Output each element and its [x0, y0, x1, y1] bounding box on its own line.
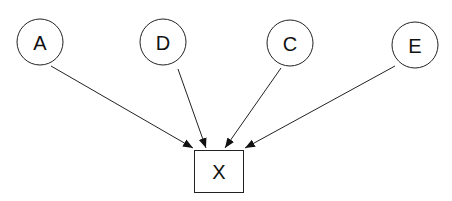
edge-d-to-x	[178, 69, 206, 148]
diagram-canvas: A D C E X	[0, 0, 452, 201]
node-d-label: D	[156, 32, 170, 54]
edge-a-to-x	[51, 66, 193, 148]
node-e-label: E	[408, 35, 421, 57]
node-x-label: X	[212, 161, 225, 183]
edge-e-to-x	[245, 66, 395, 148]
node-a: A	[17, 19, 63, 65]
edge-c-to-x	[225, 68, 281, 148]
node-e: E	[392, 22, 438, 68]
node-a-label: A	[33, 32, 47, 54]
node-c: C	[267, 20, 313, 66]
node-x: X	[195, 151, 244, 193]
node-d: D	[140, 19, 186, 65]
node-c-label: C	[283, 33, 297, 55]
